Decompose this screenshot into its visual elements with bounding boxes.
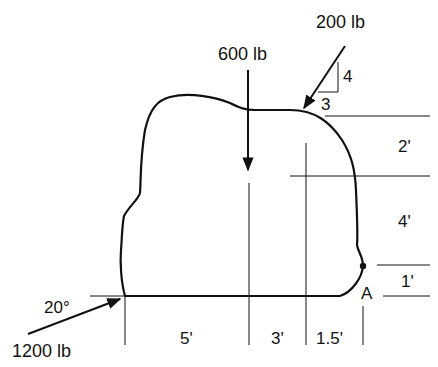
force-200-label: 200 lb xyxy=(316,13,365,31)
body-outline xyxy=(121,95,363,296)
dimension-4ft-label: 4' xyxy=(398,213,411,230)
dimension-lines xyxy=(90,116,430,345)
point-a-marker xyxy=(360,263,366,269)
angle-20-label: 20° xyxy=(44,299,70,316)
slope-run-label: 3 xyxy=(321,96,330,113)
dimension-1ft-label: 1' xyxy=(401,273,414,290)
slope-rise-label: 4 xyxy=(343,68,352,85)
point-a-label: A xyxy=(361,285,372,302)
force-1200-label: 1200 lb xyxy=(12,342,71,360)
dimension-5ft-label: 5' xyxy=(180,330,193,347)
force-600-label: 600 lb xyxy=(218,45,267,63)
dimension-1-5ft-label: 1.5' xyxy=(316,330,343,347)
dimension-2ft-label: 2' xyxy=(398,138,411,155)
dimension-3ft-label: 3' xyxy=(271,330,284,347)
force-1200-arrow xyxy=(28,299,120,334)
slope-triangle xyxy=(318,62,338,92)
